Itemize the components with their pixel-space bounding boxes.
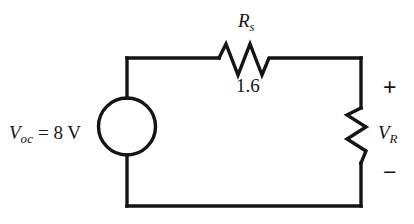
series-resistor-label: Rs — [238, 11, 255, 34]
load-voltage-label: VR — [378, 123, 398, 146]
series-resistor-symbol — [219, 44, 361, 75]
load-resistor-symbol — [347, 108, 366, 163]
polarity-plus-sign: + — [383, 76, 396, 99]
circuit-schematic-canvas — [0, 0, 414, 224]
source-voltage-label: Voc = 8 V — [9, 123, 81, 146]
source-voltage-subscript: oc — [21, 131, 34, 146]
voltage-source-circle — [99, 98, 156, 155]
series-resistor-value: 1.6 — [236, 76, 260, 95]
series-resistor-variable: R — [238, 10, 250, 31]
load-voltage-subscript: R — [390, 131, 398, 146]
polarity-minus-sign: − — [383, 161, 396, 184]
circuit-diagram: Voc = 8 V Rs 1.6 VR + − — [0, 0, 414, 224]
load-voltage-variable: V — [378, 122, 390, 143]
source-voltage-variable: V — [9, 122, 21, 143]
series-resistor-subscript: s — [250, 19, 255, 34]
source-voltage-value: = 8 V — [33, 122, 81, 143]
